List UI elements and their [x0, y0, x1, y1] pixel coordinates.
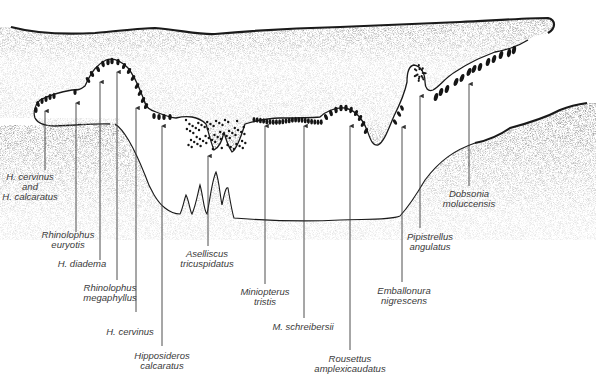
bat-mark: [106, 59, 109, 65]
bat-mark: [168, 114, 171, 120]
bat-mark: [188, 123, 190, 125]
label-line: H. diadema: [58, 259, 107, 269]
label-rhinolophus-megaphyllus: Rhinolophusmegaphyllus: [83, 283, 136, 303]
label-line: nigrescens: [377, 296, 430, 306]
bat-mark: [414, 68, 416, 70]
bat-mark: [433, 92, 439, 101]
bat-mark: [491, 54, 497, 63]
label-line: H. cervinus: [106, 327, 154, 337]
label-miniopterus-tristis: Miniopterustristis: [240, 287, 289, 307]
bat-mark: [243, 133, 245, 135]
bat-mark: [221, 124, 223, 126]
label-line: M. schreibersii: [272, 322, 333, 332]
bat-mark: [227, 121, 229, 123]
bat-mark: [320, 119, 323, 125]
bat-mark: [198, 129, 200, 131]
bat-mark: [44, 96, 47, 102]
bat-mark: [418, 78, 420, 80]
bat-mark: [197, 122, 199, 124]
bat-mark: [229, 137, 231, 139]
label-pipistrellus-angulatus: Pipistrellusangulatus: [407, 232, 453, 252]
bat-mark: [243, 126, 245, 128]
bat-mark: [272, 119, 275, 125]
bat-mark: [52, 93, 55, 99]
bat-mark: [222, 133, 224, 135]
bat-mark: [323, 113, 328, 120]
bat-mark: [236, 120, 238, 122]
bat-mark: [317, 119, 320, 125]
bat-mark: [213, 134, 215, 136]
bat-mark: [259, 118, 262, 124]
bat-mark: [226, 144, 228, 146]
bat-mark: [204, 135, 206, 137]
bat-mark: [396, 111, 402, 118]
bat-mark: [253, 117, 256, 123]
label-h-cervinus: H. cervinus: [106, 327, 154, 337]
label-line: moluccensis: [443, 199, 495, 209]
bat-mark: [414, 75, 416, 77]
bat-mark: [313, 119, 316, 125]
bat-mark: [214, 141, 216, 143]
bat-mark: [466, 67, 473, 76]
bat-mark: [217, 136, 219, 138]
bat-mark: [240, 131, 242, 133]
label-rhinolophus-euryotis: Rhinolophuseuryotis: [42, 230, 95, 250]
bat-mark: [162, 114, 165, 120]
bat-mark: [241, 140, 243, 142]
bat-mark: [191, 146, 193, 148]
bat-mark: [208, 137, 210, 139]
bat-mark: [152, 113, 155, 119]
label-emballonura-nigrescens: Emballonuranigrescens: [377, 286, 430, 306]
bat-mark: [40, 98, 43, 104]
bat-mark: [471, 64, 478, 73]
bat-mark: [237, 129, 239, 131]
bat-mark: [238, 145, 240, 147]
bat-mark: [256, 117, 259, 123]
bat-mark: [422, 78, 424, 80]
bat-mark: [269, 119, 272, 125]
bat-mark: [200, 124, 202, 126]
bat-mark: [278, 119, 281, 125]
bat-mark: [195, 127, 197, 129]
bat-mark: [234, 134, 236, 136]
bat-mark: [207, 128, 209, 130]
label-line: angulatus: [407, 242, 453, 252]
bat-mark: [234, 127, 236, 129]
bat-mark: [209, 123, 211, 125]
label-m-schreibersii: M. schreibersii: [272, 322, 333, 332]
bat-mark: [291, 117, 294, 123]
bat-mark: [307, 118, 310, 124]
bat-mark: [235, 143, 237, 145]
bat-mark: [215, 120, 217, 122]
bat-mark: [220, 138, 222, 140]
bat-mark: [275, 119, 278, 125]
bat-mark: [48, 94, 51, 100]
bat-mark: [204, 126, 206, 128]
bat-mark: [196, 143, 198, 145]
bat-mark: [199, 145, 201, 147]
bat-mark: [233, 148, 235, 150]
bat-mark: [294, 117, 297, 123]
label-rousettus-amplexicaudatus: Rousettusamplexicaudatus: [314, 354, 385, 374]
bat-mark: [459, 73, 466, 82]
label-h-cervinus-calcaratus: H. cervinusandH. calcaratus: [2, 172, 57, 202]
bat-mark: [421, 75, 423, 77]
label-line: tristis: [240, 297, 289, 307]
label-line: amplexicaudatus: [314, 364, 385, 374]
bat-mark: [297, 117, 300, 123]
label-dobsonia-moluccensis: Dobsoniamoluccensis: [443, 189, 495, 209]
label-line: megaphyllus: [83, 293, 136, 303]
bat-mark: [224, 119, 226, 121]
bat-mark: [285, 118, 288, 124]
bat-mark: [424, 72, 426, 74]
bat-mark: [418, 64, 420, 66]
bat-mark: [418, 76, 420, 78]
bat-mark: [444, 84, 450, 93]
bat-mark: [193, 141, 195, 143]
bat-mark: [192, 132, 194, 134]
label-line: H. calcaratus: [2, 192, 57, 202]
bat-mark: [344, 105, 347, 111]
bat-mark: [189, 130, 191, 132]
bat-mark: [199, 138, 201, 140]
bat-mark: [477, 62, 483, 71]
